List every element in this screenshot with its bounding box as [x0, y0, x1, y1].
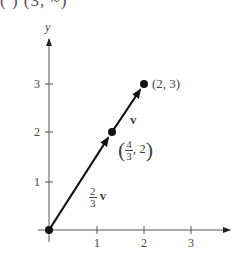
- vector-two-thirds-v-label: 23 v: [89, 186, 106, 209]
- vector-two-thirds-v: [49, 138, 108, 230]
- point-label-2-3: (2, 3): [152, 76, 180, 92]
- x-tick-3: 3: [188, 236, 194, 251]
- origin-point: [45, 226, 53, 234]
- y-tick-2: 2: [34, 125, 40, 140]
- y-axis-label: y: [45, 20, 50, 35]
- x-tick-1: 1: [94, 236, 100, 251]
- point-four-thirds-2: [108, 128, 116, 136]
- y-tick-3: 3: [34, 77, 40, 92]
- point-2-3: [140, 80, 148, 88]
- y-tick-1: 1: [34, 175, 40, 190]
- x-tick-2: 2: [141, 236, 147, 251]
- vector-v-label: v: [130, 112, 137, 128]
- point-label-four-thirds-2: (43, 2): [118, 137, 153, 163]
